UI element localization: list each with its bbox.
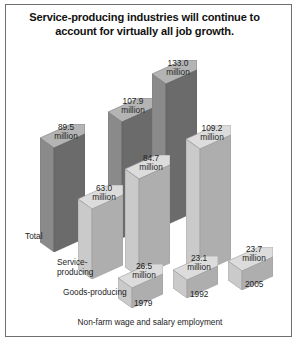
chart-figure: Service-producing industries will contin… — [0, 0, 300, 353]
year-label-1992: 1992 — [190, 289, 208, 299]
bar-label-total-1979: 89.5 million — [38, 123, 94, 142]
bar-service-2005 — [186, 125, 231, 273]
bar-label-goods-1992: 23.1 million — [171, 254, 227, 273]
year-label-2005: 2005 — [245, 279, 263, 289]
bar-label-service-1992: 84.7 million — [123, 154, 179, 173]
year-label-1979: 1979 — [134, 298, 152, 308]
chart-footnote: Non-farm wage and salary employment — [0, 317, 300, 327]
category-label-service-line-2: producing — [57, 268, 93, 278]
bar-label-goods-2005: 23.7 million — [226, 245, 282, 264]
bar-service-1992 — [125, 155, 170, 277]
bar-service-1992-shape — [125, 155, 170, 277]
bar-label-goods-1979: 26.5 million — [116, 262, 172, 281]
category-label-goods-producing: Goods-producing — [63, 288, 127, 298]
bar-service-2005-shape — [186, 125, 231, 273]
bar-label-service-1979: 63.0 million — [76, 184, 132, 203]
category-label-total: Total — [25, 232, 43, 242]
bar-label-total-2005: 133.0 million — [150, 59, 206, 78]
chart-plot-area: 89.5 million 107.9 million 133.0 mil — [0, 0, 300, 353]
category-label-service-producing: Service- producing — [57, 258, 93, 277]
bar-label-service-2005: 109.2 million — [184, 124, 240, 143]
